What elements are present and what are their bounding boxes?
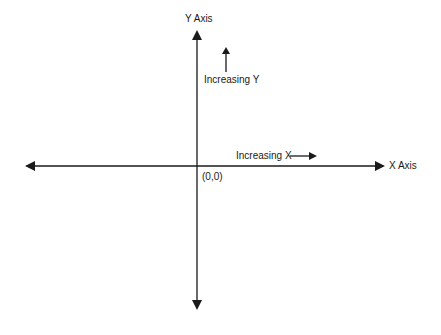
coordinate-axes [0, 0, 441, 335]
increasing-y-label: Increasing Y [204, 74, 259, 85]
x-axis-left-arrow-icon [25, 161, 35, 171]
increasing-y-arrow-icon [222, 47, 230, 54]
y-axis-label: Y Axis [185, 13, 213, 24]
x-axis-label: X Axis [389, 160, 417, 171]
y-axis-up-arrow-icon [192, 30, 202, 40]
increasing-x-arrow-icon [309, 152, 317, 160]
y-axis-down-arrow-icon [192, 300, 202, 310]
increasing-x-label: Increasing X [236, 150, 292, 161]
x-axis-right-arrow-icon [375, 161, 385, 171]
origin-label: (0,0) [202, 171, 223, 182]
